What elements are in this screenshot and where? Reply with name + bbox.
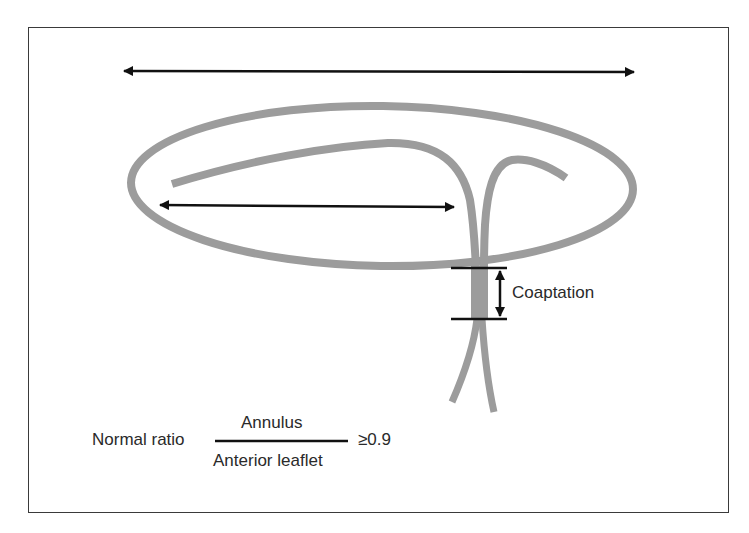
ratio-threshold: ≥0.9 (358, 431, 391, 448)
annulus-diameter-arrow (124, 71, 634, 72)
anterior-leaflet-tail (452, 319, 477, 402)
posterior-leaflet-tail (482, 319, 494, 412)
coaptation-zone (471, 266, 488, 319)
anterior-leaflet-length-arrow (160, 205, 454, 207)
normal-ratio-label: Normal ratio (92, 431, 185, 448)
ratio-numerator: Annulus (241, 414, 302, 431)
annulus-ellipse (130, 103, 634, 270)
mitral-valve-diagram (0, 0, 749, 533)
coaptation-label: Coaptation (512, 284, 594, 301)
ratio-denominator: Anterior leaflet (213, 452, 323, 469)
